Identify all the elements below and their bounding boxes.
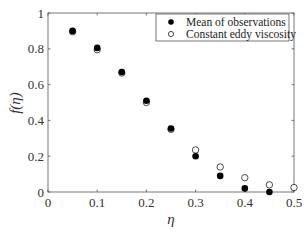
legend: Mean of observations Constant eddy visco… [156,14,296,41]
legend-label-eddy-viscosity: Constant eddy viscosity [186,28,296,41]
legend-open-circle-icon [168,31,173,36]
legend-filled-circle-icon [168,19,174,25]
x-tick-label: 0.4 [237,195,254,210]
open-circle-marker [291,184,297,190]
data-points [69,28,297,196]
filled-circle-marker [266,189,273,196]
filled-circle-marker [143,97,150,104]
y-tick-label: 0.4 [28,113,45,128]
y-tick-label: 0.2 [28,149,44,164]
y-tick-label: 0.8 [28,41,44,56]
filled-circle-marker [69,28,76,35]
filled-circle-marker [242,185,249,192]
x-axis-label: η [167,211,174,227]
y-tick-label: 0 [38,185,45,200]
open-circle-marker [217,164,223,170]
filled-circle-marker [217,173,224,180]
legend-label-observations: Mean of observations [186,16,286,28]
filled-circle-marker [119,69,126,76]
y-axis-label: f(η) [7,92,24,114]
y-tick-label: 0.6 [28,77,45,92]
x-tick-label: 0.2 [138,195,154,210]
x-tick-label: 0.5 [286,195,302,210]
x-tick-label: 0.1 [89,195,105,210]
open-circle-marker [242,174,248,180]
open-circle-marker [266,182,272,188]
filled-circle-marker [192,153,199,160]
x-tick-label: 0 [45,195,52,210]
open-circle-marker [192,147,198,153]
filled-circle-marker [94,45,101,52]
x-tick-label: 0.3 [187,195,203,210]
scatter-chart: 00.10.20.30.40.500.20.40.60.81 η f(η) Me… [0,0,307,235]
y-tick-label: 1 [38,6,45,21]
filled-circle-marker [168,125,175,132]
